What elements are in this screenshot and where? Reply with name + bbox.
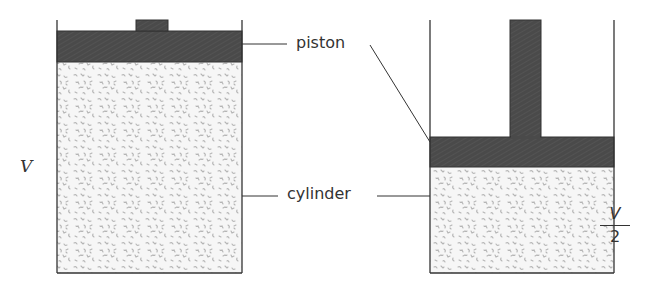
right-piston-rod [510, 20, 541, 137]
piston-label: piston [296, 35, 345, 51]
piston-leader-right [370, 45, 430, 142]
left-gas [57, 62, 242, 273]
volume-v-label: V [20, 158, 32, 175]
left-piston-knob [136, 20, 168, 31]
fraction-bar [600, 225, 630, 226]
left-piston-plate [57, 31, 242, 62]
volume-half-label: V 2 [600, 205, 630, 246]
left-cylinder [57, 20, 242, 273]
fraction-numerator: V [600, 205, 630, 223]
cylinder-label: cylinder [287, 186, 351, 202]
right-piston-plate [430, 137, 614, 167]
fraction-denominator: 2 [600, 228, 630, 246]
right-gas [430, 167, 614, 273]
right-cylinder [430, 20, 614, 273]
